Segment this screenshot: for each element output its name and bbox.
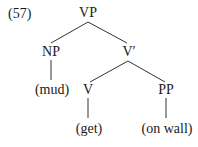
node-pp: PP xyxy=(158,83,174,97)
edge-vbar-pp xyxy=(128,61,165,82)
edge-vp-np xyxy=(51,22,88,43)
leaf-get: (get) xyxy=(76,122,102,136)
node-np: NP xyxy=(42,45,60,59)
node-vp: VP xyxy=(79,6,97,20)
leaf-on-wall: (on wall) xyxy=(142,122,193,136)
node-v: V xyxy=(83,83,93,97)
edge-vp-vbar xyxy=(88,22,127,43)
node-vbar: V′ xyxy=(122,45,135,59)
edge-vbar-v xyxy=(90,61,128,82)
leaf-mud: (mud) xyxy=(35,83,69,97)
